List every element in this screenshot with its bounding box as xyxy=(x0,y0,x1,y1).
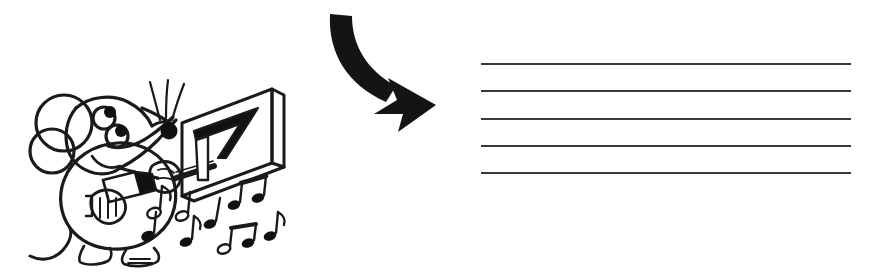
staff-line xyxy=(481,145,851,147)
worksheet-canvas xyxy=(0,0,875,275)
music-note-beamed-pair xyxy=(216,224,256,255)
music-note xyxy=(262,212,284,242)
board-side-face xyxy=(272,89,284,167)
flow-arrow xyxy=(300,0,460,275)
music-note-beamed-pair xyxy=(226,176,266,211)
staff-line xyxy=(481,90,851,92)
staff-line xyxy=(481,118,851,120)
mouse-nose xyxy=(161,123,178,140)
mouse-tail xyxy=(30,228,71,259)
mouse-pupil-left xyxy=(104,106,116,118)
foot-toe-lines xyxy=(128,259,152,263)
board-engraving-stem xyxy=(196,136,208,180)
whisker-3 xyxy=(172,84,184,120)
arrow-shaft xyxy=(330,14,396,102)
mouse-body xyxy=(61,143,176,249)
blank-music-staff[interactable] xyxy=(460,0,875,275)
mouse-pupil-right xyxy=(115,125,127,137)
whisker-2 xyxy=(166,80,168,118)
mouse-mouth xyxy=(92,156,120,168)
flow-arrow-svg xyxy=(300,0,460,275)
music-note xyxy=(202,198,220,230)
staff-line xyxy=(481,63,851,65)
left-hand-finger-lines xyxy=(100,196,116,218)
mouse-illustration-svg xyxy=(0,0,300,275)
left-thumb xyxy=(86,196,92,216)
mouse-illustration xyxy=(0,0,300,275)
tool-neck xyxy=(135,172,156,194)
staff-line xyxy=(481,172,851,174)
